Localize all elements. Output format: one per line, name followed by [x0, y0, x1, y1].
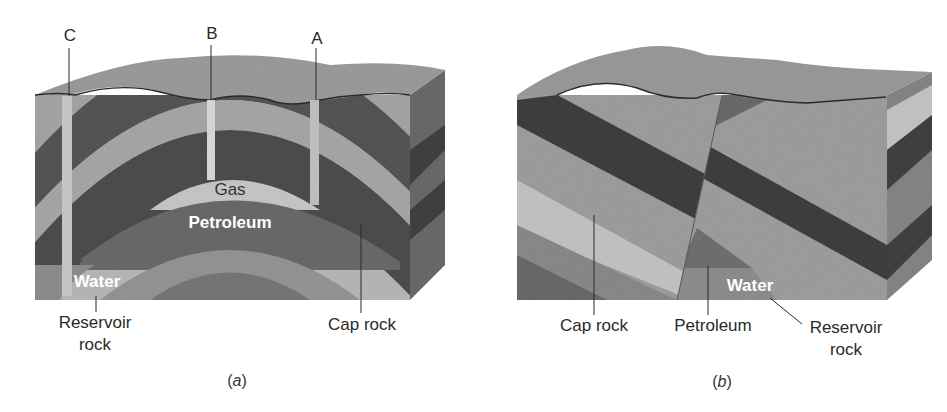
panel-caption-a: (a): [227, 372, 247, 390]
cap-rock-label: Cap rock: [328, 315, 396, 334]
cap-rock-label: Cap rock: [560, 316, 628, 335]
leader-reservoir-rock: [770, 298, 802, 324]
well-label-c: C: [64, 26, 76, 45]
well-label-b: B: [206, 24, 217, 43]
petroleum-label: Petroleum: [674, 316, 751, 335]
reservoir-rock-label-line2: rock: [830, 340, 862, 359]
water-label: Water: [74, 272, 121, 291]
fault-block-diagram: [477, 0, 947, 412]
ground-surface: [517, 46, 932, 103]
reservoir-rock-label-line2: rock: [79, 335, 111, 354]
reservoir-rock-label-line1: Reservoir: [59, 313, 132, 332]
well-label-a: A: [311, 29, 322, 48]
reservoir-rock-label-line1: Reservoir: [810, 318, 883, 337]
water-label: Water: [727, 276, 774, 295]
panel-caption-b: (b): [712, 373, 732, 391]
anticline-block-diagram: [0, 0, 470, 412]
well-c: [62, 96, 72, 296]
well-b: [207, 100, 215, 180]
petroleum-label: Petroleum: [188, 213, 271, 232]
caption-letter: a: [233, 372, 242, 389]
well-a: [310, 100, 319, 205]
panel-b-fault-trap: Water Cap rock Petroleum Reservoir rock …: [477, 0, 947, 412]
gas-label: Gas: [214, 180, 245, 199]
panel-a-anticline-trap: C B A Gas Petroleum Water Reservoir rock…: [0, 0, 470, 412]
caption-letter: b: [718, 373, 727, 390]
